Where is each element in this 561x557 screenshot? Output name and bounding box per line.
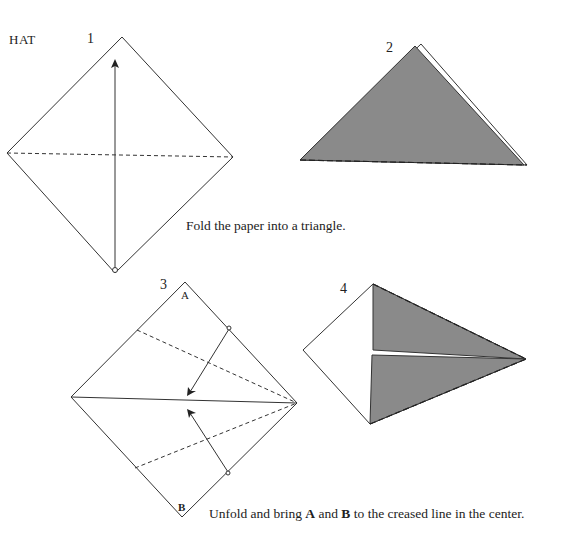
instruction-diagrams [0,0,561,557]
caption-label-a: A [305,506,315,521]
step1-diagram [7,37,233,273]
step2-number: 2 [386,40,393,56]
step3-number: 3 [160,277,167,293]
step4-number: 4 [340,281,347,297]
step3-label-a: A [181,289,189,301]
step1-arrow-tail-circle [113,268,118,273]
step3-arrow-b-tail-circle [226,471,230,475]
step2-folded-triangle [300,46,524,165]
step3-arrow-a-tail-circle [227,326,231,330]
step3-caption: Unfold and bring A and B to the creased … [209,506,524,522]
step4-diagram [303,284,526,424]
caption-text: Unfold and bring [209,506,305,521]
step4-lower-flap [370,355,526,424]
step3-label-b: B [178,501,185,513]
step2-diagram [300,44,527,165]
caption-text: and [315,506,341,521]
caption-text: to the creased line in the center. [350,506,524,521]
page-title: HAT [9,32,36,48]
step1-caption: Fold the paper into a triangle. [186,218,346,234]
step1-number: 1 [87,31,94,47]
step3-diagram [71,282,297,517]
